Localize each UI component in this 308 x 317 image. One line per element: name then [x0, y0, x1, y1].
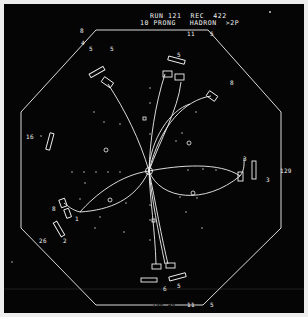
- label: 11: [187, 302, 195, 308]
- label: 1: [75, 216, 79, 222]
- label: 11: [187, 31, 195, 37]
- label: 5: [177, 52, 181, 58]
- label: 5: [210, 302, 214, 308]
- hit-dots: [11, 11, 271, 263]
- label: 4: [81, 40, 85, 46]
- label: 16: [26, 134, 34, 140]
- label: 5: [177, 283, 181, 289]
- particle-tracks: [64, 74, 244, 264]
- label: 2: [63, 238, 67, 244]
- event-type-label: 10 PRONG HADRON >2P: [140, 20, 239, 27]
- label: 8: [52, 206, 56, 212]
- bottom-label: 196 49: [152, 302, 175, 308]
- label: 8: [80, 28, 84, 34]
- label: 8: [230, 80, 234, 86]
- detector-octagon: [21, 30, 281, 305]
- label: 5: [110, 46, 114, 52]
- event-display: [0, 0, 308, 317]
- label: 6: [163, 286, 167, 292]
- label: 129: [280, 168, 292, 174]
- label: 3: [243, 156, 247, 162]
- label: 26: [39, 238, 47, 244]
- label: 5: [89, 46, 93, 52]
- label: 5: [210, 31, 214, 37]
- label: 3: [266, 177, 270, 183]
